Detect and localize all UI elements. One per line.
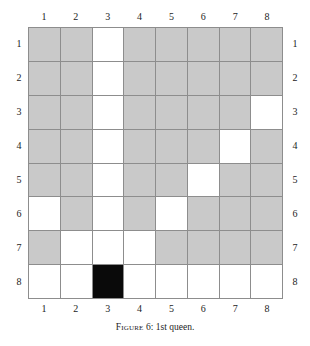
board-cell bbox=[61, 130, 93, 164]
board-cell bbox=[188, 28, 220, 62]
board-cell bbox=[29, 130, 61, 164]
row-label-right-6: 6 bbox=[287, 197, 303, 231]
column-label-top-1: 1 bbox=[28, 9, 60, 25]
column-label-top-6: 6 bbox=[187, 9, 219, 25]
figure-caption: Figure 6: 1st queen. bbox=[0, 322, 310, 332]
column-label-top-8: 8 bbox=[251, 9, 283, 25]
column-label-top-5: 5 bbox=[156, 9, 188, 25]
row-label-left-4: 4 bbox=[11, 129, 27, 163]
column-label-top-2: 2 bbox=[60, 9, 92, 25]
board-cell bbox=[156, 130, 188, 164]
board-cell bbox=[93, 164, 125, 198]
board-cell bbox=[251, 265, 283, 299]
row-label-right-4: 4 bbox=[287, 129, 303, 163]
board-cell bbox=[188, 130, 220, 164]
row-label-right-3: 3 bbox=[287, 95, 303, 129]
board-cell bbox=[29, 164, 61, 198]
caption-label: Figure bbox=[116, 322, 144, 332]
board-cell bbox=[124, 265, 156, 299]
row-labels-right: 1 2 3 4 5 6 7 8 bbox=[287, 27, 303, 299]
column-label-bottom-1: 1 bbox=[28, 301, 60, 317]
caption-text: 1st queen. bbox=[156, 322, 195, 332]
board-cell bbox=[156, 96, 188, 130]
board-cell bbox=[251, 231, 283, 265]
board-cell bbox=[124, 197, 156, 231]
row-label-left-7: 7 bbox=[11, 231, 27, 265]
board-cell bbox=[188, 231, 220, 265]
row-label-right-1: 1 bbox=[287, 27, 303, 61]
board-cell bbox=[93, 231, 125, 265]
board-cell bbox=[124, 164, 156, 198]
column-label-bottom-4: 4 bbox=[124, 301, 156, 317]
column-labels-bottom: 1 2 3 4 5 6 7 8 bbox=[28, 301, 283, 317]
column-label-top-3: 3 bbox=[92, 9, 124, 25]
board-cell bbox=[29, 96, 61, 130]
board-cell bbox=[93, 197, 125, 231]
column-labels-top: 1 2 3 4 5 6 7 8 bbox=[28, 9, 283, 25]
board-cell bbox=[93, 130, 125, 164]
column-label-bottom-8: 8 bbox=[251, 301, 283, 317]
board-cell bbox=[188, 265, 220, 299]
board-cell bbox=[61, 197, 93, 231]
board-cell bbox=[220, 265, 252, 299]
column-label-bottom-2: 2 bbox=[60, 301, 92, 317]
row-label-right-2: 2 bbox=[287, 61, 303, 95]
row-label-left-2: 2 bbox=[11, 61, 27, 95]
row-label-left-6: 6 bbox=[11, 197, 27, 231]
board-cell bbox=[93, 62, 125, 96]
board-cell bbox=[251, 130, 283, 164]
row-label-left-3: 3 bbox=[11, 95, 27, 129]
row-label-left-8: 8 bbox=[11, 265, 27, 299]
board-cell bbox=[251, 62, 283, 96]
column-label-bottom-7: 7 bbox=[219, 301, 251, 317]
board-cell bbox=[220, 28, 252, 62]
board-cell bbox=[93, 28, 125, 62]
board-cell bbox=[188, 96, 220, 130]
board-cell bbox=[220, 130, 252, 164]
board-cell bbox=[251, 28, 283, 62]
board-cell bbox=[124, 28, 156, 62]
board-cell bbox=[188, 164, 220, 198]
board-cell bbox=[61, 28, 93, 62]
board-cell bbox=[220, 96, 252, 130]
board-cell bbox=[220, 231, 252, 265]
row-label-left-1: 1 bbox=[11, 27, 27, 61]
board-cell bbox=[220, 164, 252, 198]
board-cell-queen bbox=[93, 265, 125, 299]
board-cell bbox=[156, 62, 188, 96]
board-cell bbox=[61, 164, 93, 198]
board-cell bbox=[61, 231, 93, 265]
board-cell bbox=[156, 164, 188, 198]
board-cell bbox=[29, 197, 61, 231]
board-cell bbox=[61, 96, 93, 130]
column-label-bottom-6: 6 bbox=[187, 301, 219, 317]
board-cell bbox=[29, 231, 61, 265]
column-label-bottom-3: 3 bbox=[92, 301, 124, 317]
board-cell bbox=[29, 62, 61, 96]
board-cell bbox=[156, 265, 188, 299]
chessboard bbox=[28, 27, 283, 299]
board-cell bbox=[156, 197, 188, 231]
board-cell bbox=[61, 62, 93, 96]
column-label-bottom-5: 5 bbox=[156, 301, 188, 317]
board-cell bbox=[220, 62, 252, 96]
board-cell bbox=[188, 62, 220, 96]
column-label-top-7: 7 bbox=[219, 9, 251, 25]
board-cell bbox=[156, 231, 188, 265]
board-cell bbox=[188, 197, 220, 231]
board-cell bbox=[124, 96, 156, 130]
board-cell bbox=[124, 130, 156, 164]
column-label-top-4: 4 bbox=[124, 9, 156, 25]
row-labels-left: 1 2 3 4 5 6 7 8 bbox=[11, 27, 27, 299]
row-label-right-5: 5 bbox=[287, 163, 303, 197]
board-cell bbox=[29, 265, 61, 299]
row-label-right-7: 7 bbox=[287, 231, 303, 265]
chessboard-grid bbox=[28, 27, 283, 299]
board-cell bbox=[124, 62, 156, 96]
row-label-left-5: 5 bbox=[11, 163, 27, 197]
board-cell bbox=[61, 265, 93, 299]
board-cell bbox=[93, 96, 125, 130]
board-cell bbox=[251, 164, 283, 198]
figure-container: 1 2 3 4 5 6 7 8 1 2 3 4 5 6 7 8 1 2 3 4 … bbox=[0, 0, 310, 346]
board-cell bbox=[251, 96, 283, 130]
